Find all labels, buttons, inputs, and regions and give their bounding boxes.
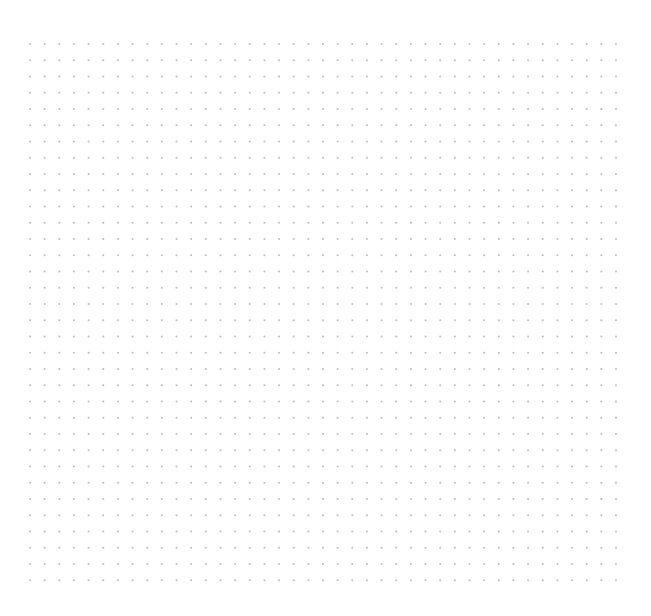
dot-marker-icon	[542, 352, 544, 354]
dot-marker-icon	[102, 319, 104, 321]
dot-marker-icon	[132, 482, 134, 484]
dot-marker-icon	[293, 368, 295, 370]
dot-marker-icon	[175, 75, 177, 77]
dot-marker-icon	[454, 124, 456, 126]
dot-grid-row	[29, 417, 617, 419]
dot-marker-icon	[307, 482, 309, 484]
dot-marker-icon	[600, 140, 602, 142]
dot-marker-icon	[439, 465, 441, 467]
dot-grid-row	[29, 59, 617, 61]
dot-marker-icon	[366, 579, 368, 581]
dot-marker-icon	[132, 368, 134, 370]
dot-marker-icon	[366, 335, 368, 337]
dot-marker-icon	[132, 92, 134, 94]
dot-marker-icon	[615, 368, 617, 370]
dot-marker-icon	[600, 368, 602, 370]
dot-marker-icon	[73, 319, 75, 321]
dot-marker-icon	[88, 335, 90, 337]
dot-marker-icon	[88, 270, 90, 272]
dot-marker-icon	[381, 417, 383, 419]
dot-marker-icon	[278, 449, 280, 451]
dot-marker-icon	[175, 547, 177, 549]
dot-marker-icon	[366, 498, 368, 500]
dot-marker-icon	[498, 140, 500, 142]
dot-marker-icon	[293, 124, 295, 126]
dot-marker-icon	[175, 368, 177, 370]
dot-marker-icon	[512, 238, 514, 240]
dot-marker-icon	[322, 514, 324, 516]
dot-marker-icon	[205, 189, 207, 191]
dot-marker-icon	[146, 482, 148, 484]
dot-marker-icon	[219, 303, 221, 305]
dot-marker-icon	[175, 465, 177, 467]
dot-marker-icon	[337, 43, 339, 45]
dot-marker-icon	[498, 335, 500, 337]
dot-marker-icon	[498, 563, 500, 565]
dot-marker-icon	[586, 173, 588, 175]
dot-marker-icon	[615, 124, 617, 126]
dot-marker-icon	[175, 400, 177, 402]
dot-marker-icon	[322, 352, 324, 354]
dot-marker-icon	[542, 189, 544, 191]
dot-marker-icon	[219, 335, 221, 337]
dot-marker-icon	[58, 92, 60, 94]
dot-marker-icon	[425, 514, 427, 516]
dot-marker-icon	[117, 547, 119, 549]
dot-marker-icon	[205, 465, 207, 467]
dot-marker-icon	[586, 482, 588, 484]
dot-marker-icon	[439, 530, 441, 532]
dot-marker-icon	[278, 465, 280, 467]
dot-marker-icon	[454, 563, 456, 565]
dot-marker-icon	[146, 335, 148, 337]
dot-marker-icon	[293, 563, 295, 565]
dot-marker-icon	[337, 108, 339, 110]
dot-marker-icon	[175, 173, 177, 175]
dot-marker-icon	[483, 43, 485, 45]
dot-marker-icon	[102, 140, 104, 142]
dot-marker-icon	[29, 514, 31, 516]
dot-marker-icon	[44, 238, 46, 240]
dot-marker-icon	[234, 238, 236, 240]
dot-marker-icon	[512, 514, 514, 516]
dot-marker-icon	[366, 465, 368, 467]
dot-marker-icon	[249, 173, 251, 175]
dot-marker-icon	[381, 449, 383, 451]
dot-marker-icon	[73, 270, 75, 272]
dot-marker-icon	[307, 433, 309, 435]
dot-marker-icon	[337, 303, 339, 305]
dot-marker-icon	[219, 352, 221, 354]
dot-marker-icon	[571, 384, 573, 386]
dot-marker-icon	[483, 465, 485, 467]
dot-marker-icon	[600, 189, 602, 191]
dot-marker-icon	[205, 449, 207, 451]
dot-marker-icon	[351, 482, 353, 484]
dot-marker-icon	[571, 530, 573, 532]
dot-marker-icon	[366, 319, 368, 321]
dot-marker-icon	[73, 335, 75, 337]
dot-marker-icon	[556, 189, 558, 191]
dot-marker-icon	[527, 43, 529, 45]
dot-marker-icon	[425, 449, 427, 451]
dot-marker-icon	[58, 579, 60, 581]
dot-marker-icon	[542, 238, 544, 240]
dot-marker-icon	[88, 482, 90, 484]
dot-marker-icon	[395, 270, 397, 272]
dot-marker-icon	[190, 222, 192, 224]
dot-marker-icon	[88, 400, 90, 402]
dot-marker-icon	[337, 368, 339, 370]
dot-marker-icon	[205, 303, 207, 305]
dot-marker-icon	[600, 108, 602, 110]
dot-marker-icon	[615, 465, 617, 467]
dot-marker-icon	[263, 465, 265, 467]
dot-marker-icon	[322, 482, 324, 484]
dot-marker-icon	[278, 173, 280, 175]
dot-marker-icon	[395, 59, 397, 61]
dot-grid-row	[29, 579, 617, 581]
dot-marker-icon	[395, 433, 397, 435]
dot-marker-icon	[381, 579, 383, 581]
dot-marker-icon	[337, 157, 339, 159]
dot-marker-icon	[146, 465, 148, 467]
dot-grid-canvas[interactable]	[0, 0, 651, 616]
dot-marker-icon	[175, 319, 177, 321]
dot-marker-icon	[219, 400, 221, 402]
